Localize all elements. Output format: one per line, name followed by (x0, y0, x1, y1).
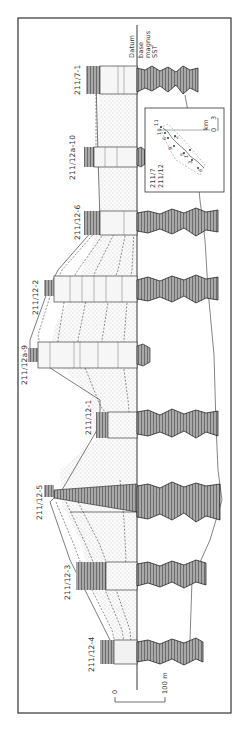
well-label-211-7-1: 211/7-1 (73, 64, 82, 95)
inset-scale-start: 0 (210, 128, 218, 132)
inset-scale-end: 3 (210, 116, 218, 120)
well-label-211-12a-9: 211/12a-9 (20, 345, 29, 385)
datum-label-group: Datum base magnus SST (128, 30, 159, 58)
inset-well-6: 6 (161, 137, 167, 140)
well-label-211-12a-10: 211/12a-10 (68, 135, 77, 180)
inset-location-map: 11 10 6 2 9 1 5 3 4 211/7 211/12 km 0 3 (145, 108, 224, 192)
inset-block-211-12: 211/12 (157, 164, 165, 188)
inset-well-2: 2 (173, 136, 179, 139)
well-label-211-12-1: 211/12-1 (84, 400, 93, 435)
inset-scale-unit: km (202, 120, 210, 131)
depth-scale-bar: 0 100 m (111, 672, 169, 702)
scale-bar-end: 100 m (161, 672, 169, 694)
inset-well-5: 5 (179, 153, 185, 156)
well-label-211-12-6: 211/12-6 (73, 205, 82, 240)
well-log-211-12a-10 (84, 147, 145, 167)
inset-well-11: 11 (153, 119, 159, 126)
well-log-211-12a-9 (28, 342, 150, 368)
well-log-211-12-3 (76, 560, 206, 590)
well-log-211-12-4 (100, 638, 203, 665)
well-log-211-7-1 (86, 66, 198, 94)
inset-well-9: 9 (167, 147, 173, 150)
datum-label: Datum (128, 35, 136, 58)
well-label-211-12-5: 211/12-5 (35, 485, 44, 520)
well-label-211-12-4: 211/12-4 (87, 637, 96, 672)
datum-label-sst: SST (151, 45, 159, 58)
well-label-211-12-2: 211/12-2 (31, 280, 40, 315)
well-log-211-12-1 (96, 409, 218, 438)
cross-section-figure: Datum base magnus SST 211/7-1 211/12a-10… (0, 0, 240, 732)
inset-well-4: 4 (197, 169, 203, 172)
inset-well-3: 3 (187, 161, 193, 164)
inset-block-211-7: 211/7 (149, 168, 157, 188)
well-log-211-12-2 (44, 275, 218, 303)
inset-well-10: 10 (156, 128, 162, 135)
well-label-211-12-3: 211/12-3 (63, 565, 72, 600)
well-log-211-12-6 (84, 208, 218, 236)
scale-bar-start: 0 (111, 690, 119, 694)
